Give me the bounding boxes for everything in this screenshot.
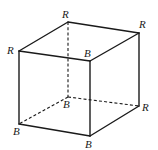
visible-edge — [90, 33, 139, 61]
hidden-edges — [19, 22, 139, 124]
visible-edge — [19, 22, 68, 51]
cube-diagram: R R R B B R B B — [0, 0, 158, 150]
visible-edge — [19, 124, 90, 136]
label-top-back-left: R — [61, 8, 69, 20]
label-bottom-front-left: B — [13, 125, 20, 137]
hidden-edge — [19, 97, 68, 124]
visible-edge — [19, 51, 90, 61]
label-top-front-left: R — [6, 44, 14, 56]
label-bottom-back-left: B — [63, 98, 70, 110]
hidden-edge — [68, 97, 139, 106]
label-top-front-right: B — [84, 47, 91, 59]
visible-edge — [68, 22, 139, 33]
label-top-back-right: R — [138, 18, 146, 30]
visible-edges — [19, 22, 139, 136]
vertex-labels: R R R B B R B B — [6, 8, 149, 150]
label-bottom-back-right: R — [141, 101, 149, 113]
label-bottom-front-right: B — [85, 138, 92, 150]
visible-edge — [90, 106, 139, 136]
